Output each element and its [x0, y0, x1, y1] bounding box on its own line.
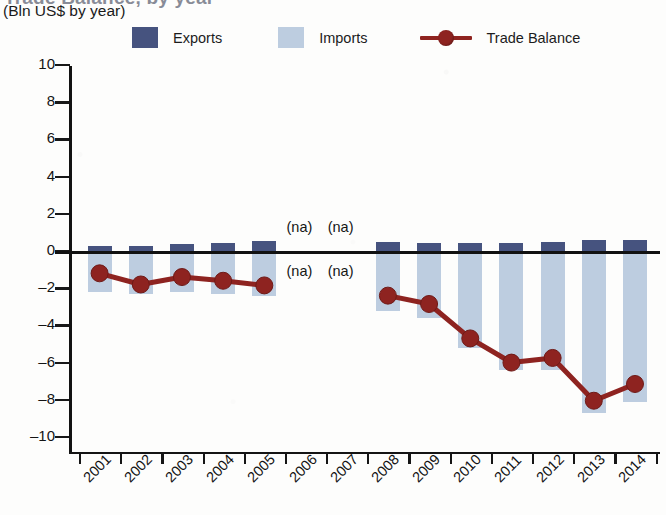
y-axis-tick: [55, 176, 70, 178]
x-axis-tick: [573, 452, 575, 464]
x-axis-tick: [491, 452, 493, 464]
x-axis-tick: [450, 452, 452, 464]
y-axis-tick: [55, 213, 70, 215]
trade-balance-point: [626, 375, 643, 392]
y-axis-labels: 1086420–2–4–6–8–10: [7, 60, 55, 452]
trade-balance-line-series: [69, 60, 660, 452]
x-axis-ticks: [69, 452, 660, 464]
trade-balance-point: [503, 354, 520, 371]
x-axis-tick: [367, 452, 369, 464]
trade-balance-point: [462, 330, 479, 347]
y-axis-tick: [55, 436, 70, 438]
y-axis-tick-label: –8: [38, 390, 55, 407]
trade-balance-point: [173, 269, 190, 286]
y-axis-tick-label: 10: [38, 55, 55, 72]
y-axis-tick-label: 2: [47, 204, 55, 221]
legend-swatch-exports-icon: [132, 27, 158, 48]
x-axis-tick: [408, 452, 410, 464]
chart-subtitle: (Bln US$ by year): [3, 2, 125, 20]
legend-label-exports: Exports: [173, 30, 222, 46]
y-axis-tick-label: 8: [47, 92, 55, 109]
y-axis-tick-label: –2: [38, 278, 55, 295]
legend-label-trade-balance: Trade Balance: [487, 30, 581, 46]
y-axis-tick: [55, 287, 70, 289]
y-axis-tick-label: –4: [38, 315, 55, 332]
trade-balance-point: [256, 277, 273, 294]
legend-item-exports: Exports: [132, 27, 222, 48]
trade-balance-point: [91, 265, 108, 282]
x-axis-tick: [656, 452, 658, 464]
x-axis-tick: [120, 452, 122, 464]
x-axis-tick: [326, 452, 328, 464]
y-axis-tick-label: 6: [47, 129, 55, 146]
x-axis-tick: [244, 452, 246, 464]
x-axis-tick: [79, 452, 81, 464]
plot-area: 1086420–2–4–6–8–10 (na)(na)(na)(na) 2001…: [69, 60, 660, 452]
y-axis-tick-label: –6: [38, 353, 55, 370]
legend-item-imports: Imports: [278, 27, 367, 48]
legend-swatch-imports-icon: [278, 27, 304, 48]
trade-balance-point: [132, 276, 149, 293]
x-axis-tick: [614, 452, 616, 464]
y-axis-tick: [55, 64, 70, 66]
x-axis-tick: [285, 452, 287, 464]
y-axis-tick: [55, 101, 70, 103]
y-axis-tick-label: 0: [47, 241, 55, 258]
legend-item-trade-balance: Trade Balance: [420, 27, 581, 48]
trade-balance-point: [215, 272, 232, 289]
chart-legend: Exports Imports Trade Balance: [132, 27, 580, 48]
trade-balance-point: [421, 296, 438, 313]
x-axis-tick: [532, 452, 534, 464]
trade-balance-point: [544, 349, 561, 366]
legend-label-imports: Imports: [319, 30, 367, 46]
y-axis-tick: [55, 362, 70, 364]
y-axis-tick-label: –10: [30, 427, 55, 444]
x-axis-labels: 2001200220032004200520062007200820092010…: [69, 464, 660, 515]
x-axis-tick: [203, 452, 205, 464]
y-axis-tick: [55, 138, 70, 140]
x-axis-tick: [161, 452, 163, 464]
trade-balance-point: [585, 392, 602, 409]
y-axis-tick-label: 4: [47, 167, 55, 184]
trade-balance-point: [379, 287, 396, 304]
legend-line-marker-icon: [420, 27, 472, 48]
y-axis-tick: [55, 399, 70, 401]
y-axis-tick: [55, 324, 70, 326]
